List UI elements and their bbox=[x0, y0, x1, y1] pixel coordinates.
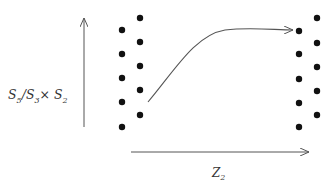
right-dot bbox=[314, 112, 320, 118]
left-dot bbox=[119, 51, 125, 57]
right-dot bbox=[296, 124, 302, 130]
left-dot bbox=[119, 27, 125, 33]
y-axis-label: S5/S3× S2 bbox=[8, 87, 68, 105]
left-dot bbox=[137, 15, 143, 21]
left-dot bbox=[137, 63, 143, 69]
right-dot bbox=[314, 64, 320, 70]
left-dot bbox=[137, 87, 143, 93]
x-axis-label: Z2 bbox=[212, 166, 225, 182]
right-dot bbox=[296, 76, 302, 82]
flow-curve-arrow bbox=[148, 29, 293, 102]
left-dot bbox=[137, 112, 143, 118]
right-dot bbox=[296, 28, 302, 34]
right-dot bbox=[314, 88, 320, 94]
left-dot bbox=[119, 99, 125, 105]
lattice-dots bbox=[119, 15, 320, 130]
right-dot bbox=[314, 40, 320, 46]
right-dot bbox=[314, 15, 320, 21]
left-dot bbox=[137, 39, 143, 45]
right-dot bbox=[296, 51, 302, 57]
left-dot bbox=[119, 75, 125, 81]
right-dot bbox=[296, 100, 302, 106]
left-dot bbox=[119, 124, 125, 130]
